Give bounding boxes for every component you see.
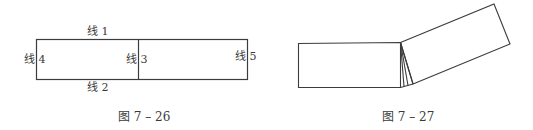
label-line-3: 线 3 xyxy=(126,54,148,66)
figure-7-27-drawing xyxy=(299,4,511,88)
label-line-1: 线 1 xyxy=(87,26,109,38)
right-panel-folded xyxy=(401,4,511,84)
label-line-5: 线 5 xyxy=(235,51,257,63)
caption-figure-7-26: 图 7 – 26 xyxy=(118,110,170,124)
left-panel xyxy=(299,43,401,88)
caption-figure-7-27: 图 7 – 27 xyxy=(382,110,434,124)
label-line-4: 线 4 xyxy=(24,54,46,66)
label-line-2: 线 2 xyxy=(87,82,109,94)
diagram-canvas xyxy=(0,0,533,130)
bottom-connector xyxy=(401,84,414,88)
